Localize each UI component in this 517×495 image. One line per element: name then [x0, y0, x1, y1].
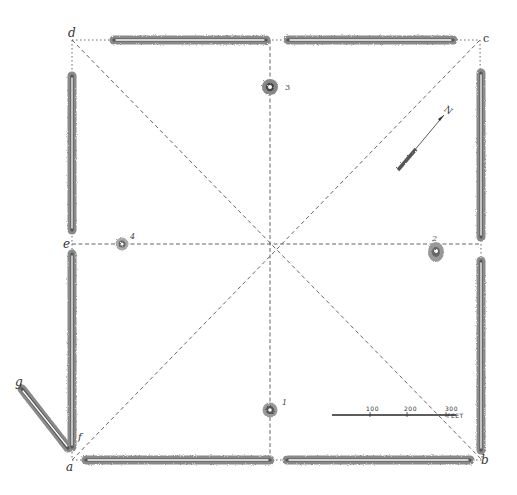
point-label-e: e [63, 238, 70, 250]
scale-bar [332, 412, 456, 417]
mound-1 [263, 403, 278, 418]
mounds [116, 79, 445, 418]
scale-unit: FEET [447, 413, 464, 419]
mound-2 [428, 242, 444, 262]
mound-label-1: 1 [282, 399, 287, 407]
mound-label-2: 2 [432, 235, 437, 243]
corner-label-c: c [483, 33, 489, 44]
wing-label-f: f [78, 432, 82, 442]
scale-tick-100: 100 [366, 406, 379, 412]
corner-label-d: d [68, 27, 76, 39]
wing-label-g: g [15, 376, 23, 388]
north-arrow-icon [398, 115, 444, 170]
mound-3 [262, 79, 278, 95]
diagonal-d-b [72, 40, 482, 460]
mound-4 [116, 238, 129, 251]
scale-tick-200: 200 [404, 406, 417, 412]
corner-label-b: b [481, 454, 489, 466]
walls [22, 40, 481, 460]
earthwork-plan [0, 0, 517, 495]
construction-lines [72, 40, 482, 460]
corner-label-a: a [66, 461, 73, 473]
mound-label-4: 4 [130, 233, 135, 241]
mound-label-3: 3 [285, 84, 290, 92]
